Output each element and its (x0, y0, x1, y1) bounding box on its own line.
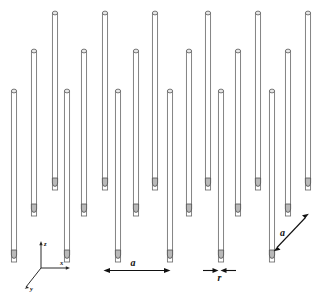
rod (64, 89, 69, 262)
y-axis-arrowhead (25, 286, 30, 289)
rod (11, 89, 16, 262)
rod (285, 49, 290, 216)
rod (205, 11, 210, 190)
rod (52, 11, 57, 190)
lattice-x-arrowhead-left (104, 268, 111, 273)
lattice-x-label: a (131, 257, 136, 268)
rod (133, 49, 138, 216)
y-axis-label: y (29, 285, 33, 292)
rod (152, 11, 157, 190)
rod (305, 11, 310, 190)
z-axis-arrowhead (39, 241, 42, 245)
dimension-rod-radius: r (203, 268, 236, 283)
rod (269, 89, 274, 262)
x-axis-arrowhead (66, 266, 70, 269)
rod-row-middle (31, 49, 290, 216)
rod (115, 89, 120, 262)
rod (186, 49, 191, 216)
rod-radius-label: r (218, 272, 222, 283)
dimension-lattice-y: a (274, 214, 309, 251)
dimension-lattice-x: a (104, 257, 171, 273)
rod (102, 11, 107, 190)
rod (235, 49, 240, 216)
rod (81, 49, 86, 216)
lattice-y-label: a (280, 227, 285, 238)
rod (31, 49, 36, 216)
y-axis-line (26, 268, 41, 287)
coordinate-axes: z x y (25, 240, 70, 292)
nanorod-array-figure: z x y a r a (0, 0, 322, 301)
z-axis-label: z (43, 240, 47, 247)
diagram-canvas: z x y a r a (0, 0, 322, 301)
lattice-x-arrowhead-right (164, 268, 171, 273)
rod (255, 11, 260, 190)
rod (218, 89, 223, 262)
rod (167, 89, 172, 262)
x-axis-label: x (59, 259, 64, 266)
lattice-y-arrowhead-upper (302, 214, 309, 218)
